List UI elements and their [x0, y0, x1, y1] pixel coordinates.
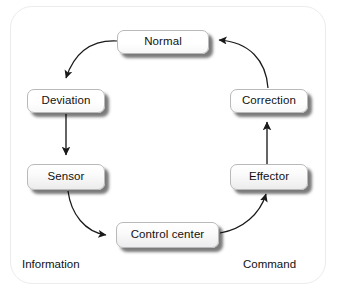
node-deviation-label: Deviation [42, 95, 91, 108]
edge-control-to-effector [220, 194, 266, 233]
diagram-canvas: Normal Deviation Sensor Control center E… [0, 0, 341, 293]
node-correction-label: Correction [242, 95, 296, 108]
edge-correction-to-normal [219, 40, 268, 88]
node-control-center-label: Control center [131, 229, 205, 242]
node-deviation[interactable]: Deviation [27, 89, 105, 113]
edge-sensor-to-control [68, 191, 106, 235]
node-effector[interactable]: Effector [230, 164, 308, 190]
node-sensor[interactable]: Sensor [27, 164, 105, 190]
edge-normal-to-deviation [66, 41, 117, 78]
node-control-center[interactable]: Control center [116, 222, 219, 248]
zone-label-information: Information [22, 258, 80, 270]
node-normal[interactable]: Normal [117, 30, 209, 54]
node-correction[interactable]: Correction [230, 89, 308, 113]
node-effector-label: Effector [249, 171, 289, 184]
node-sensor-label: Sensor [47, 171, 84, 184]
node-normal-label: Normal [144, 36, 182, 49]
zone-label-command: Command [243, 258, 296, 270]
